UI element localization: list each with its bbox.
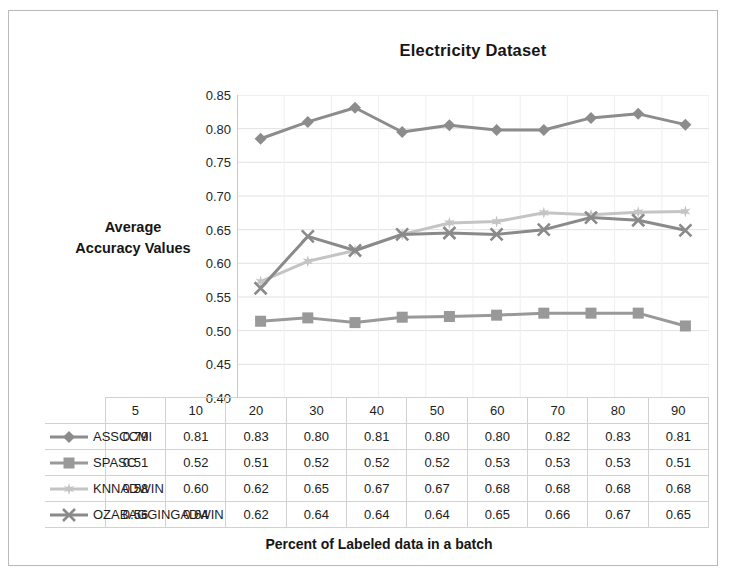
chart-title: Electricity Dataset	[237, 41, 709, 60]
marker-square	[397, 312, 408, 323]
legend-entry-ozabaggingadwin: OZABAGGINGADWIN	[45, 502, 105, 528]
table-column-header: 30	[286, 398, 346, 424]
table-cell: 0.53	[588, 450, 648, 476]
y-axis-tick-labels: 0.850.800.750.700.650.600.550.500.450.40	[189, 95, 231, 398]
table-cell: 0.52	[286, 450, 346, 476]
table-cell: 0.64	[347, 502, 407, 528]
table-row: ASSCCMI0.790.810.830.800.810.800.800.820…	[45, 424, 709, 450]
y-tick-label: 0.60	[206, 256, 231, 271]
legend-marker-square-icon	[49, 455, 89, 471]
marker-diamond	[302, 116, 314, 128]
table-column-header: 60	[467, 398, 527, 424]
marker-square	[64, 457, 75, 468]
table-cell: 0.65	[467, 502, 527, 528]
table-cell: 0.51	[648, 450, 708, 476]
y-tick-label: 0.70	[206, 189, 231, 204]
table-column-header: 40	[347, 398, 407, 424]
table-row: SPASC0.510.520.510.520.520.520.530.530.5…	[45, 450, 709, 476]
marker-diamond	[632, 108, 644, 120]
marker-square	[680, 320, 691, 331]
table-cell: 0.64	[286, 502, 346, 528]
table-cell: 0.80	[467, 424, 527, 450]
table-row: OZABAGGINGADWIN0.560.640.620.640.640.640…	[45, 502, 709, 528]
legend-marker-cross-icon	[49, 507, 89, 523]
table-cell: 0.51	[226, 450, 286, 476]
marker-square	[586, 308, 597, 319]
table-cell: 0.68	[528, 476, 588, 502]
marker-diamond	[349, 102, 361, 114]
y-tick-label: 0.80	[206, 121, 231, 136]
table-cell: 0.65	[648, 502, 708, 528]
figure-frame: Electricity Dataset Average Accuracy Val…	[8, 10, 718, 566]
marker-square	[302, 312, 313, 323]
table-cell: 0.68	[467, 476, 527, 502]
plot-area	[237, 95, 709, 398]
table-cell: 0.83	[226, 424, 286, 450]
legend-marker-star-icon	[49, 481, 89, 497]
y-tick-label: 0.45	[206, 357, 231, 372]
y-tick-label: 0.50	[206, 323, 231, 338]
marker-diamond	[538, 124, 550, 136]
table-column-header: 20	[226, 398, 286, 424]
table-cell: 0.68	[648, 476, 708, 502]
table-corner-cell	[45, 398, 105, 424]
table-cell: 0.64	[407, 502, 467, 528]
marker-square	[491, 310, 502, 321]
table-cell: 0.53	[467, 450, 527, 476]
marker-diamond	[491, 124, 503, 136]
table-cell: 0.68	[588, 476, 648, 502]
x-axis-title: Percent of Labeled data in a batch	[209, 536, 549, 552]
marker-square	[538, 308, 549, 319]
table-column-header: 5	[105, 398, 165, 424]
table-cell: 0.80	[407, 424, 467, 450]
table-header-row: 5102030405060708090	[45, 398, 709, 424]
legend-entry-spasc: SPASC	[45, 450, 105, 476]
plot-svg	[237, 95, 709, 398]
legend-entry-assccmi: ASSCCMI	[45, 424, 105, 450]
table-cell: 0.52	[166, 450, 226, 476]
legend-marker-diamond-icon	[49, 429, 89, 445]
marker-square	[350, 317, 361, 328]
table-cell: 0.65	[286, 476, 346, 502]
table-cell: 0.81	[347, 424, 407, 450]
table-column-header: 80	[588, 398, 648, 424]
table-row: KNNADWIN0.580.600.620.650.670.670.680.68…	[45, 476, 709, 502]
marker-square	[255, 316, 266, 327]
table-cell: 0.62	[226, 476, 286, 502]
table-cell: 0.81	[166, 424, 226, 450]
marker-diamond	[585, 112, 597, 124]
table-cell: 0.67	[407, 476, 467, 502]
table-cell: 0.81	[648, 424, 708, 450]
table-cell: 0.62	[226, 502, 286, 528]
marker-diamond	[443, 119, 455, 131]
table-cell: 0.67	[347, 476, 407, 502]
table-cell: 0.60	[166, 476, 226, 502]
table-cell: 0.67	[588, 502, 648, 528]
table-column-header: 50	[407, 398, 467, 424]
y-tick-label: 0.55	[206, 290, 231, 305]
marker-diamond	[396, 126, 408, 138]
y-tick-label: 0.65	[206, 222, 231, 237]
table-column-header: 10	[166, 398, 226, 424]
marker-diamond	[63, 431, 75, 443]
table-column-header: 90	[648, 398, 708, 424]
table-body: ASSCCMI0.790.810.830.800.810.800.800.820…	[45, 424, 709, 528]
table-cell: 0.52	[347, 450, 407, 476]
table-cell: 0.80	[286, 424, 346, 450]
table-cell: 0.53	[528, 450, 588, 476]
y-tick-label: 0.75	[206, 155, 231, 170]
table-column-header: 70	[528, 398, 588, 424]
table-cell: 0.82	[528, 424, 588, 450]
table-cell: 0.83	[588, 424, 648, 450]
table-cell: 0.52	[407, 450, 467, 476]
marker-square	[633, 308, 644, 319]
data-table: 5102030405060708090 ASSCCMI0.790.810.830…	[45, 397, 709, 528]
marker-diamond	[255, 133, 267, 145]
legend-entry-knnadwin: KNNADWIN	[45, 476, 105, 502]
y-tick-label: 0.85	[206, 88, 231, 103]
table-cell: 0.66	[528, 502, 588, 528]
marker-square	[444, 311, 455, 322]
